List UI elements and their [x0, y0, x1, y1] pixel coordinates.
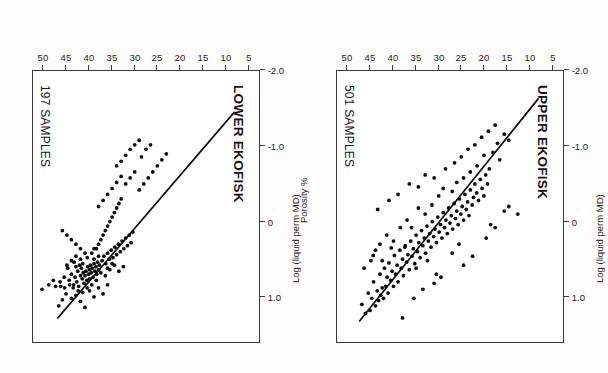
data-point — [83, 251, 87, 255]
data-point — [455, 209, 459, 213]
data-point — [79, 274, 83, 278]
data-point — [451, 227, 455, 231]
data-point — [374, 248, 378, 252]
data-point — [67, 278, 71, 282]
data-point — [119, 159, 123, 163]
data-point — [79, 299, 83, 303]
data-point — [106, 266, 110, 270]
data-point — [146, 176, 150, 180]
x-tick-label: 50 — [38, 52, 49, 63]
data-point — [117, 269, 121, 273]
data-point — [106, 251, 110, 255]
x-tick — [156, 65, 157, 70]
data-point — [437, 230, 441, 234]
data-point — [409, 239, 413, 243]
data-point — [137, 138, 141, 142]
data-point — [128, 147, 132, 151]
x-tick — [460, 65, 461, 70]
data-point — [444, 218, 448, 222]
data-point — [493, 123, 497, 127]
x-tick — [88, 65, 89, 70]
plot-area-lower — [33, 71, 259, 342]
data-point — [410, 254, 414, 258]
y-tick — [260, 221, 265, 222]
data-point — [422, 236, 426, 240]
data-point — [447, 206, 451, 210]
x-tick — [134, 65, 135, 70]
data-point — [91, 275, 95, 279]
x-tick-label: 40 — [84, 52, 95, 63]
data-point — [390, 269, 394, 273]
y-tick — [564, 221, 569, 222]
x-tick — [552, 65, 553, 70]
data-point — [424, 251, 428, 255]
data-point — [140, 155, 144, 159]
data-point — [126, 244, 130, 248]
data-point — [456, 223, 460, 227]
data-point — [468, 170, 472, 174]
y-tick-label: -2.0 — [268, 65, 284, 76]
x-tick — [415, 65, 416, 70]
data-point — [101, 292, 105, 296]
data-point — [82, 281, 86, 285]
data-point — [97, 254, 101, 258]
data-point — [452, 202, 456, 206]
data-point — [90, 266, 94, 270]
data-point — [437, 194, 441, 198]
scatter-plot-upper — [337, 71, 563, 342]
data-point — [97, 286, 101, 290]
data-point — [94, 278, 98, 282]
data-point — [392, 239, 396, 243]
data-point — [449, 214, 453, 218]
data-point — [454, 217, 458, 221]
data-point — [457, 242, 461, 246]
data-point — [463, 193, 467, 197]
data-point — [399, 266, 403, 270]
data-point — [122, 265, 126, 269]
data-point — [131, 230, 135, 234]
data-point — [498, 158, 502, 162]
data-point — [441, 211, 445, 215]
data-point — [502, 132, 506, 136]
data-point — [462, 176, 466, 180]
y-tick-label: -1.0 — [268, 140, 284, 151]
data-point — [375, 289, 379, 293]
y-tick — [260, 145, 265, 146]
x-tick-label: 30 — [129, 52, 140, 63]
data-point — [380, 259, 384, 263]
data-point — [421, 244, 425, 248]
data-point — [81, 262, 85, 266]
data-point — [115, 206, 119, 210]
data-point — [417, 241, 421, 245]
data-point — [110, 187, 114, 191]
data-point — [426, 239, 430, 243]
data-point — [402, 274, 406, 278]
data-point — [482, 153, 486, 157]
data-point — [133, 170, 137, 174]
plot-area-upper — [337, 71, 563, 342]
data-point — [60, 229, 64, 233]
data-point — [54, 284, 58, 288]
data-point — [75, 280, 79, 284]
data-point — [74, 265, 78, 269]
data-point — [362, 266, 366, 270]
data-point — [155, 164, 159, 168]
data-point — [118, 250, 122, 254]
data-point — [382, 296, 386, 300]
data-point — [455, 181, 459, 185]
data-point — [110, 215, 114, 219]
data-point — [151, 170, 155, 174]
data-point — [83, 305, 87, 309]
data-point — [79, 257, 83, 261]
data-point — [97, 268, 101, 272]
x-tick-label: 10 — [524, 52, 535, 63]
data-point — [445, 232, 449, 236]
y-tick — [564, 297, 569, 298]
x-tick-label: 30 — [433, 52, 444, 63]
x-tick — [42, 65, 43, 70]
x-tick — [248, 65, 249, 70]
data-point — [368, 308, 372, 312]
data-point — [516, 212, 520, 216]
data-point — [433, 227, 437, 231]
data-point — [378, 272, 382, 276]
